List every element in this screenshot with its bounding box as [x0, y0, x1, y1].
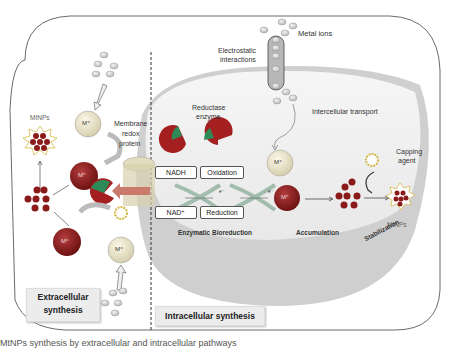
electron-label-1: e⁻: [219, 189, 225, 195]
membrane-label-line2: redox: [122, 130, 140, 138]
intracellular-synthesis-panel: Intracellular synthesis: [155, 306, 265, 326]
capping-label-line2: agent: [398, 157, 416, 165]
extracellular-synthesis-panel: Extracellular synthesis: [26, 288, 100, 322]
ion-inflow-arrow-bottom: [116, 265, 126, 290]
membrane-label-line1: Membrane: [114, 120, 147, 128]
m-plus-top-label: M⁺: [82, 120, 90, 127]
electron-label-2: e⁻: [268, 189, 274, 195]
intercellular-transport-label: Intercellular transport: [312, 108, 378, 116]
metal-ions-label: Metal ions: [298, 30, 332, 39]
nadh-box: NADH: [155, 166, 197, 179]
membrane-label-line3: protein: [119, 140, 140, 148]
reduction-box: Reduction: [200, 206, 244, 219]
enzymatic-bioreduction-label: Enzymatic Bioreduction: [178, 229, 252, 236]
reductase-label-line1: Reductase: [192, 104, 225, 112]
electrostatic-label-line1: Electrostatic: [218, 47, 256, 55]
metal-ions-left-top: [92, 52, 118, 77]
m-plus-intra-label: M⁺: [274, 159, 282, 166]
electrostatic-label-line2: interactions: [220, 56, 256, 64]
figure-caption: MtNPs synthesis by extracellular and int…: [0, 338, 237, 348]
accumulation-label: Accumulation: [296, 229, 339, 236]
nad-plus-box: NAD⁺: [155, 206, 197, 219]
metal-ions-left-bottom: [101, 288, 127, 316]
mtnps-left-label: MtNPs: [30, 114, 50, 121]
ion-channel: [268, 36, 284, 90]
m-zero-bottom-label: M⁰: [61, 238, 68, 245]
reductase-label-line2: enzyme: [196, 113, 221, 121]
oxidation-box: Oxidation: [200, 166, 244, 179]
m-zero-intra-label: M⁰: [281, 194, 288, 201]
m-plus-bottom-label: M⁺: [115, 246, 123, 253]
capping-label-line1: Capping: [396, 148, 422, 156]
extracellular-label-line1: Extracellular: [27, 291, 99, 304]
left-nanoparticle-cluster: [25, 187, 50, 212]
ion-inflow-arrow-top: [94, 84, 107, 110]
extracellular-label-line2: synthesis: [27, 304, 99, 317]
m-zero-top-label: M⁰: [78, 172, 85, 179]
enzyme-export-arrow: [120, 187, 150, 195]
capping-agent-icon: [366, 154, 378, 166]
